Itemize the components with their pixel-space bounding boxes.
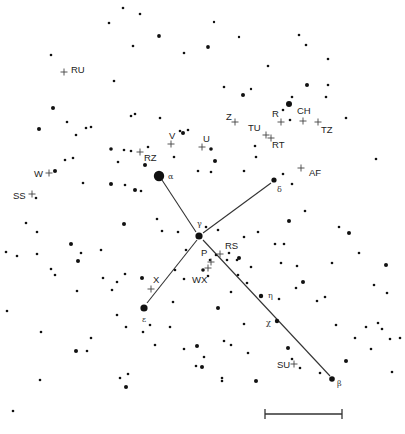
variable-star-ss: SS [13,190,36,201]
cross-marker-icon [208,259,215,266]
star-dot [345,117,348,120]
star-dot [217,229,220,232]
cross-marker-icon [148,286,155,293]
star-dot [90,126,93,129]
variable-star-rs: RS [217,240,239,258]
star-dot [134,113,137,116]
cross-marker-icon [137,149,144,156]
star-eta-dot [259,294,263,298]
star-dot [40,331,43,334]
star-eta-label: η [268,291,273,300]
star-dot [161,230,164,233]
star-alpha-dot [154,171,164,181]
star-dot [203,356,206,359]
star-dot [250,266,253,269]
cross-marker-icon [61,69,68,76]
star-dot [39,379,42,382]
constellation-lines [147,180,330,376]
cross-marker-icon [278,119,285,126]
constellation-line-gamma-delta [203,183,271,233]
star-chart: αγδεηχβ RUZRCHTZTURTVURZAFWSSRSPWXXSU [0,0,405,434]
star-dot [140,190,143,193]
star-dot [389,338,392,341]
star-dot [50,268,53,271]
star-dot [216,306,220,310]
star-dot [354,337,357,340]
variable-star-v: V [168,130,177,148]
constellation-line-gamma-epsilon [147,240,197,303]
star-dot [226,259,229,262]
star-dot [124,184,127,187]
star-dot [16,255,19,258]
star-dot [159,117,162,120]
cross-marker-icon [217,251,224,258]
star-delta-dot [271,177,276,182]
star-dot [86,350,89,353]
star-dot [375,158,378,161]
star-dot [291,96,294,99]
star-dot [127,373,130,376]
star-dot [386,292,389,295]
star-dot [119,377,122,380]
variable-star-label: CH [297,105,311,116]
star-dot [254,145,257,148]
variable-star-tz: TZ [315,119,333,136]
variable-star-su: SU [277,359,298,370]
star-dot [124,273,127,276]
star-dot [125,326,128,329]
star-dot [381,328,384,331]
star-dot [223,340,226,343]
star-epsilon-label: ε [142,315,146,324]
variable-star-label: AF [309,167,321,178]
variable-star-label: SU [277,359,290,370]
cross-marker-icon [291,361,298,368]
star-dot [221,377,224,380]
star-dot [109,147,113,151]
star-dot [282,109,285,112]
star-dot [183,278,186,281]
star-dot [289,119,292,122]
star-dot [238,36,240,38]
star-dot [254,379,258,383]
variable-star-label: SS [13,190,26,201]
star-dot [267,65,270,68]
star-dot [123,149,126,152]
star-dot [246,282,249,285]
variable-star-tu: TU [248,122,270,139]
star-dot [344,359,348,363]
star-dot [108,22,111,25]
star-beta-dot [329,376,335,382]
star-dot [324,296,327,299]
constellation-line-alpha-gamma [162,180,196,232]
star-dot [113,80,116,83]
variable-star-label: R [272,108,279,119]
variable-star-label: U [203,133,210,144]
star-dot [338,226,341,229]
cross-marker-icon [300,118,307,125]
variable-star-ru: RU [61,64,85,76]
star-dot [109,182,113,186]
star-dot [295,287,298,290]
star-dot [116,281,119,284]
star-dot [377,322,380,325]
cross-marker-icon [263,132,270,139]
star-dot [133,188,137,192]
star-chi-label: χ [266,318,271,327]
star-dot [197,170,200,173]
star-dot [174,269,177,272]
scale-bar [265,409,342,419]
star-dot [54,274,57,277]
star-dot [85,127,88,130]
star-dot [102,277,105,280]
star-dot [358,252,361,255]
star-dot [173,156,176,159]
star-dot [12,410,15,413]
star-dot [187,129,190,132]
star-dot [243,323,246,326]
star-dot [74,349,78,353]
variable-star-label: TZ [321,124,333,135]
star-dot [298,34,301,37]
variable-star-label: RU [71,64,85,75]
star-dot [205,226,208,229]
star-dot [282,173,285,176]
